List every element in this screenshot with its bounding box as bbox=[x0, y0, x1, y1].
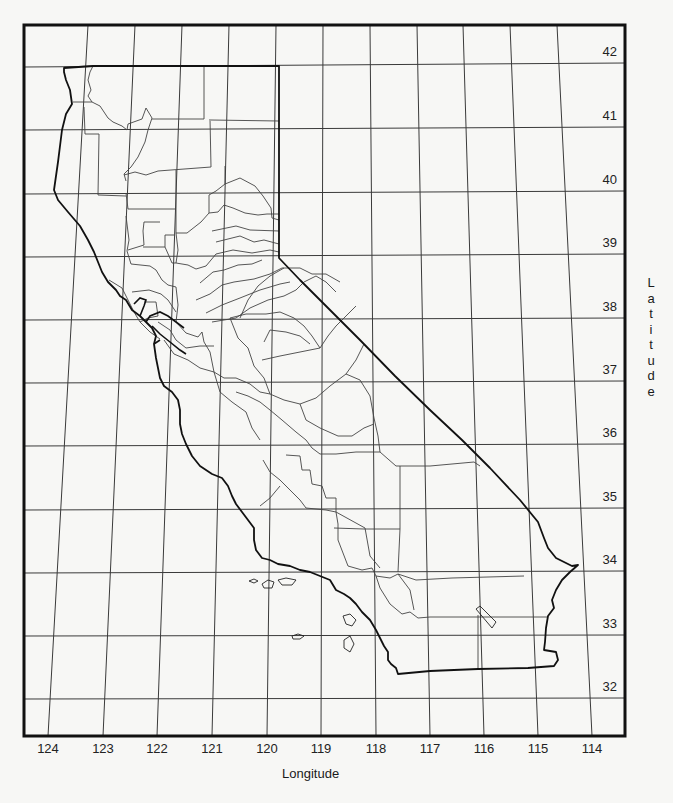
longitude-label: 114 bbox=[572, 741, 612, 756]
latitude-line bbox=[24, 698, 625, 699]
longitude-line bbox=[212, 25, 229, 736]
longitude-line bbox=[510, 25, 538, 736]
longitude-line bbox=[463, 25, 484, 736]
longitude-label: 122 bbox=[137, 741, 177, 756]
map-frame bbox=[24, 25, 625, 736]
california-map bbox=[0, 0, 673, 803]
longitude-label: 124 bbox=[28, 741, 68, 756]
longitude-label: 121 bbox=[192, 741, 232, 756]
latitude-line bbox=[24, 444, 625, 446]
latitude-line bbox=[24, 191, 625, 194]
latitude-label: 33 bbox=[587, 616, 617, 631]
latitude-label: 40 bbox=[587, 172, 617, 187]
latitude-label: 35 bbox=[587, 489, 617, 504]
longitude-label: 115 bbox=[518, 741, 558, 756]
latitude-label: 38 bbox=[587, 299, 617, 314]
latitude-line bbox=[24, 571, 625, 573]
longitude-line bbox=[321, 25, 323, 736]
latitude-label: 36 bbox=[587, 425, 617, 440]
longitude-label: 123 bbox=[83, 741, 123, 756]
latitude-label: 32 bbox=[587, 679, 617, 694]
longitude-label: 118 bbox=[356, 741, 396, 756]
longitude-label: 117 bbox=[410, 741, 450, 756]
longitude-label: 119 bbox=[301, 741, 341, 756]
latitude-line bbox=[24, 381, 625, 383]
latitude-label: 34 bbox=[587, 552, 617, 567]
latitude-line bbox=[24, 127, 625, 130]
y-axis-title: Latitude bbox=[644, 275, 658, 399]
longitude-line bbox=[267, 25, 276, 736]
county-boundaries bbox=[64, 66, 548, 669]
channel-islands bbox=[249, 578, 496, 652]
longitude-label: 116 bbox=[464, 741, 504, 756]
latitude-line bbox=[24, 318, 625, 320]
latitude-line bbox=[24, 254, 625, 257]
latitude-line bbox=[24, 635, 625, 636]
latitude-label: 37 bbox=[587, 362, 617, 377]
latitude-label: 41 bbox=[587, 108, 617, 123]
longitude-label: 120 bbox=[247, 741, 287, 756]
longitude-line bbox=[103, 25, 135, 736]
california-state-outline bbox=[54, 66, 578, 674]
longitude-line bbox=[417, 25, 430, 736]
latitude-label: 42 bbox=[587, 44, 617, 59]
longitude-line bbox=[48, 25, 88, 736]
lat-lon-grid bbox=[24, 25, 625, 736]
latitude-label: 39 bbox=[587, 235, 617, 250]
x-axis-title: Longitude bbox=[282, 766, 339, 781]
